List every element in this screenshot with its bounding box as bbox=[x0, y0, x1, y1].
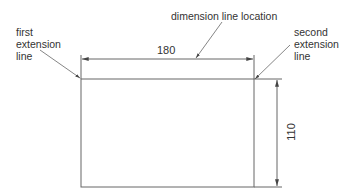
horizontal-dimension-value: 180 bbox=[157, 44, 175, 56]
second-extension-label-line3: line bbox=[294, 50, 339, 62]
first-extension-label-line1: first bbox=[16, 26, 61, 38]
dimension-location-leader bbox=[196, 22, 222, 58]
dimension-line-location-label: dimension line location bbox=[171, 10, 277, 22]
first-extension-label-line3: line bbox=[16, 50, 61, 62]
vertical-dimension-value: 110 bbox=[285, 122, 297, 142]
second-extension-label: second extension line bbox=[294, 26, 339, 62]
first-extension-label: first extension line bbox=[16, 26, 61, 62]
second-extension-leader bbox=[255, 45, 290, 79]
second-extension-label-line1: second bbox=[294, 26, 339, 38]
second-extension-label-line2: extension bbox=[294, 38, 339, 50]
object-rectangle bbox=[81, 79, 254, 187]
first-extension-label-line2: extension bbox=[16, 38, 61, 50]
